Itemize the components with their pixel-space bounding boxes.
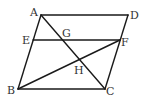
label-F: F [121,36,129,49]
label-B: B [7,84,15,97]
label-G: G [62,27,71,40]
label-E: E [22,34,30,47]
segment-AB [18,15,41,89]
label-A: A [29,6,39,19]
label-H: H [74,64,84,77]
segments [18,15,128,89]
label-C: C [106,85,114,98]
label-D: D [130,9,139,22]
geometry-figure: A D E G F H B C [0,0,142,99]
segment-DC [105,15,128,89]
